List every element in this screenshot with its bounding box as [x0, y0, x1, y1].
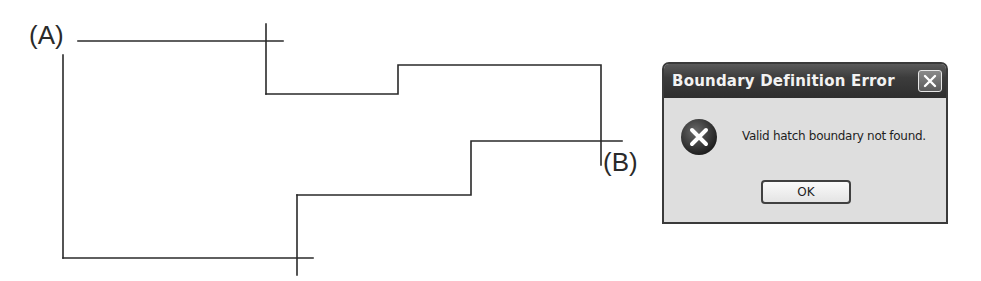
point-b-label: (B)	[603, 149, 638, 175]
dialog-title: Boundary Definition Error	[672, 72, 895, 90]
dialog-body: Valid hatch boundary not found. OK	[664, 98, 946, 222]
dialog-titlebar[interactable]: Boundary Definition Error	[664, 64, 946, 98]
boundary-error-dialog: Boundary Definition Error Valid hatch bo…	[662, 62, 948, 224]
error-message: Valid hatch boundary not found.	[742, 129, 926, 143]
close-icon	[922, 73, 938, 89]
close-button[interactable]	[918, 70, 942, 92]
ok-button[interactable]: OK	[761, 180, 851, 204]
point-a-label: (A)	[29, 22, 64, 48]
upper-step-line	[266, 65, 601, 165]
error-icon	[680, 118, 718, 156]
lower-step-line	[297, 141, 622, 195]
